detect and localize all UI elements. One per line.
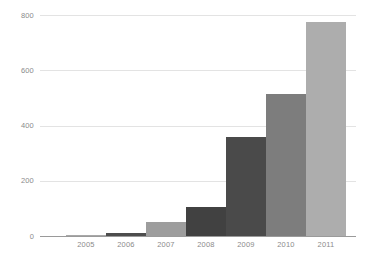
xtick-label-2007: 2007 [146,241,186,249]
bar-2005[interactable] [66,235,106,236]
xtick-label-2011: 2011 [306,241,346,249]
bar-2006[interactable] [106,233,146,236]
bar-chart: 800 600 400 200 0 2005 2006 2007 2008 20… [0,0,374,265]
xtick-label-2005: 2005 [66,241,106,249]
bars-layer [40,10,356,241]
bar-2009[interactable] [226,137,266,236]
bar-2011[interactable] [306,22,346,236]
ytick-label-600: 600 [0,67,34,75]
ytick-label-800: 800 [0,12,34,20]
bar-2007[interactable] [146,222,186,236]
xtick-label-2010: 2010 [266,241,306,249]
xtick-label-2009: 2009 [226,241,266,249]
xtick-label-2006: 2006 [106,241,146,249]
ytick-label-200: 200 [0,177,34,185]
bar-2010[interactable] [266,94,306,236]
ytick-label-0: 0 [0,233,34,241]
bar-2008[interactable] [186,207,226,236]
xtick-label-2008: 2008 [186,241,226,249]
ytick-label-400: 400 [0,122,34,130]
